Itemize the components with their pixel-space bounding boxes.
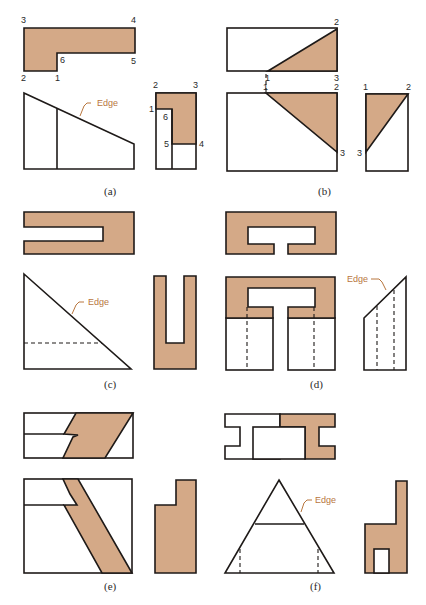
panel-a-top-label-4: 4 (131, 15, 136, 25)
panel-f: Edge (f) (225, 414, 407, 593)
panel-a-side-label-3: 3 (193, 80, 198, 90)
panel-b-front-label-3: 3 (340, 148, 345, 158)
panel-b-side-label-3: 3 (357, 148, 362, 158)
panel-a: 3 4 6 5 2 1 Edge 2 3 1 6 5 4 (a) (21, 15, 204, 198)
panel-f-edge-leader (301, 500, 312, 512)
panel-a-side-label-2: 2 (153, 80, 158, 90)
panel-c-top-view (24, 212, 134, 254)
panel-a-top-label-5: 5 (131, 56, 136, 66)
panel-f-edge-label: Edge (315, 495, 336, 505)
panel-a-top-label-2: 2 (21, 73, 26, 83)
panel-e-side-view (155, 480, 196, 573)
panel-a-top-label-6: 6 (60, 55, 65, 65)
panel-c-edge-leader (72, 302, 84, 314)
panel-a-side-label-4: 4 (199, 139, 204, 149)
panel-c-front-view (24, 274, 131, 369)
panel-d-top-view (226, 212, 336, 254)
panel-a-top-view (24, 28, 135, 71)
panel-f-side-opening (374, 549, 389, 573)
panel-c: Edge (c) (24, 212, 196, 391)
panel-f-caption: (f) (310, 580, 321, 593)
panel-b-caption: (b) (318, 185, 331, 198)
panel-c-edge-label: Edge (88, 297, 109, 307)
panel-a-side-label-5: 5 (164, 139, 169, 149)
panel-d-side-view (364, 277, 406, 370)
panel-d-front-lower-left (226, 318, 273, 370)
panel-b: 2 1 3 1 2 3 1 2 3 (b) (227, 17, 411, 198)
panel-d: Edge (d) (226, 212, 406, 391)
panel-b-side-label-2: 2 (406, 82, 411, 92)
panel-c-side-view (154, 276, 196, 369)
panel-c-caption: (c) (104, 378, 117, 391)
panel-d-edge-label: Edge (347, 274, 368, 284)
multiview-drawing-figure: 3 4 6 5 2 1 Edge 2 3 1 6 5 4 (a) 2 1 3 1 (0, 0, 426, 605)
panel-d-front-lower-right (288, 318, 335, 370)
panel-d-front-shaded (226, 277, 335, 318)
panel-b-front-label-1: 1 (263, 82, 268, 92)
panel-e: (e) (24, 413, 196, 593)
panel-e-caption: (e) (104, 580, 117, 593)
panel-d-caption: (d) (310, 378, 323, 391)
panel-b-top-label-2: 2 (334, 17, 339, 27)
panel-d-edge-leader (371, 279, 386, 290)
panel-a-edge-leader (80, 103, 91, 116)
panel-a-side-label-1: 1 (149, 104, 154, 114)
panel-a-top-label-3: 3 (21, 15, 26, 25)
panel-a-caption: (a) (104, 185, 117, 198)
panel-f-top-inner-block (253, 427, 305, 459)
panel-a-top-label-1: 1 (55, 73, 60, 83)
panel-a-edge-label: Edge (97, 98, 118, 108)
panel-b-side-label-1: 1 (363, 82, 368, 92)
panel-a-side-label-6: 6 (163, 112, 168, 122)
panel-b-front-label-2: 2 (334, 82, 339, 92)
